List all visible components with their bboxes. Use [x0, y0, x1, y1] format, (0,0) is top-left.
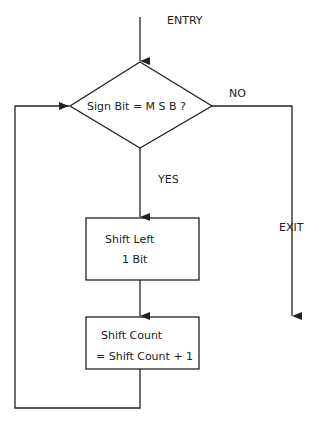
no-branch-line — [212, 106, 292, 316]
exit-label: EXIT — [279, 221, 304, 234]
no-label: NO — [229, 87, 246, 100]
yes-label: YES — [157, 173, 179, 186]
flowchart: ENTRY Sign Bit = M S B ? NO YES EXIT Shi… — [0, 0, 319, 421]
decision-text: Sign Bit = M S B ? — [87, 100, 186, 113]
shift-count-line1: Shift Count — [101, 329, 163, 342]
entry-label: ENTRY — [167, 14, 203, 27]
shift-left-line1: Shift Left — [105, 233, 155, 246]
shift-left-box — [86, 218, 199, 280]
shift-count-line2: = Shift Count + 1 — [96, 350, 193, 363]
shift-left-line2: 1 Bit — [122, 253, 148, 266]
